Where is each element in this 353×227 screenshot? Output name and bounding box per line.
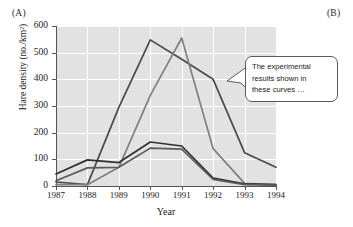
figure-panel-a: (A) (B) 0 100 200 300 400 [0, 0, 353, 227]
chart-plot: 0 100 200 300 400 500 600 1987 1988 1989… [0, 0, 353, 227]
series-lines-layer [0, 0, 353, 227]
callout-annotation: The experimental results shown in these … [245, 56, 338, 102]
callout-line-2: results shown in [252, 73, 332, 85]
series-line [56, 38, 276, 185]
callout-line-1: The experimental [252, 61, 332, 73]
series-group [56, 38, 276, 185]
callout-line-3: these curves … [252, 84, 332, 96]
